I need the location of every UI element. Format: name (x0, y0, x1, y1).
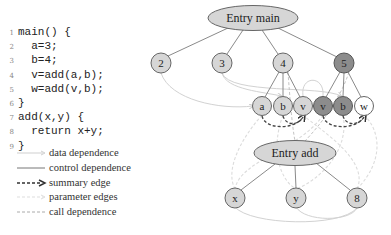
add-node-8: 8 (347, 188, 367, 208)
param-node-b-in-2: b (334, 97, 353, 116)
svg-text:b: b (280, 100, 286, 112)
param-node-w-out: w (355, 97, 374, 116)
svg-text:5: 5 (341, 57, 347, 69)
svg-text:3: 3 (219, 57, 225, 69)
svg-text:x: x (232, 192, 238, 204)
param-node-v-out: v (294, 97, 313, 116)
svg-text:w: w (360, 100, 368, 112)
add-node-y: y (286, 188, 306, 208)
stmt-node-5: 5 (334, 53, 354, 73)
summary-edges (262, 116, 364, 127)
svg-text:y: y (293, 192, 299, 204)
svg-text:a: a (260, 100, 265, 112)
stmt-node-3: 3 (212, 53, 232, 73)
svg-text:Entry main: Entry main (226, 11, 280, 25)
svg-text:4: 4 (280, 57, 286, 69)
svg-text:v: v (300, 100, 306, 112)
svg-text:2: 2 (158, 57, 164, 69)
param-node-b-in: b (274, 97, 293, 116)
entry-add-node: Entry add (254, 141, 336, 166)
param-node-v-in: v (314, 97, 333, 116)
svg-text:v: v (320, 100, 326, 112)
svg-text:Entry add: Entry add (272, 146, 319, 160)
svg-text:b: b (340, 100, 346, 112)
stmt-node-4: 4 (273, 53, 293, 73)
add-node-x: x (225, 188, 245, 208)
svg-text:8: 8 (354, 192, 360, 204)
entry-main-node: Entry main (208, 6, 298, 31)
param-node-a-in: a (253, 97, 272, 116)
sdg-graph: Entry main 2 3 4 5 a b v v b w Entry add… (0, 0, 391, 235)
stmt-node-2: 2 (151, 53, 171, 73)
